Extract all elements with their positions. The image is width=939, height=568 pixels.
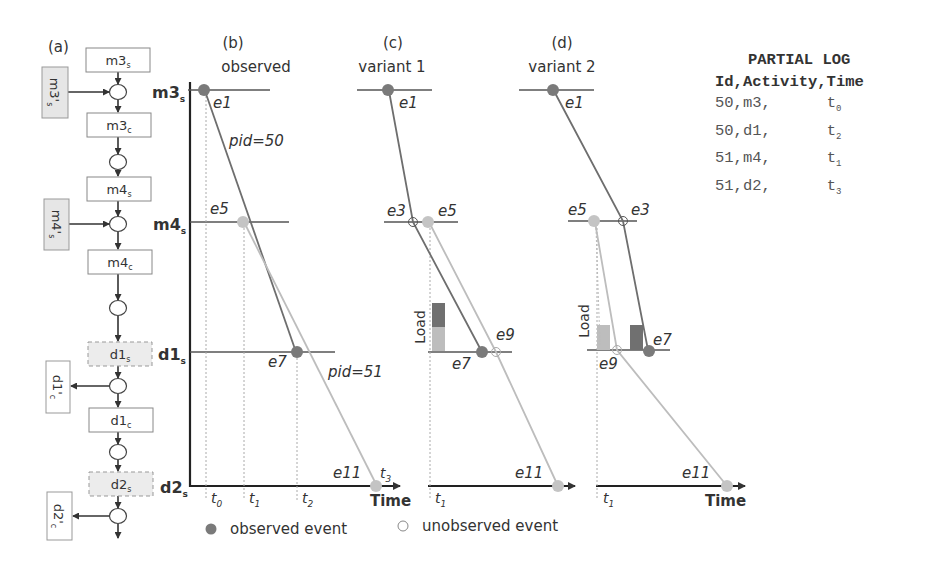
event-e7-observed — [291, 346, 303, 358]
level-d2s: d2s — [160, 478, 188, 499]
log-header: Id,Activity,Time — [715, 72, 864, 94]
legend-observed: observed event — [230, 520, 347, 538]
place-7 — [110, 509, 127, 524]
level-m3s: m3s — [152, 83, 185, 104]
place-1 — [110, 85, 127, 100]
svg-text:e7: e7 — [268, 353, 287, 371]
log-row: 50,d1, t2 — [715, 121, 864, 149]
flow-box-m3s: m3s — [86, 48, 150, 72]
svg-text:e11: e11 — [515, 464, 543, 482]
unobserved-event-legend-icon — [398, 521, 408, 531]
place-4 — [110, 301, 127, 316]
level-d1s: d1s — [158, 345, 186, 366]
observed-event-legend-icon — [206, 524, 217, 535]
place-5 — [110, 379, 127, 394]
event-e11-observed — [370, 480, 382, 492]
svg-text:m3's: m3's — [45, 78, 62, 107]
flow-box-m4s: m4s — [87, 177, 151, 201]
panel-d: (d) variant 2 Load e1 e5 e3 e9 e7 e11 t1… — [519, 34, 746, 510]
svg-text:t1: t1 — [603, 490, 614, 509]
svg-text:e5: e5 — [568, 201, 587, 219]
svg-text:e5: e5 — [210, 200, 229, 218]
place-2 — [110, 155, 127, 170]
panel-c-title: variant 1 — [358, 58, 425, 76]
load-label-d: Load — [576, 304, 592, 338]
svg-text:e7: e7 — [452, 355, 471, 373]
side-box-m4prime-s: m4's — [44, 199, 69, 250]
panel-a: (a) — [42, 38, 153, 540]
svg-text:e1: e1 — [213, 94, 232, 112]
side-box-m3prime-s: m3's — [42, 67, 68, 118]
svg-text:e3: e3 — [631, 201, 650, 219]
svg-text:e9: e9 — [599, 355, 618, 373]
legend-unobserved: unobserved event — [422, 517, 558, 535]
flow-box-m4c: m4c — [88, 250, 152, 274]
svg-text:t2: t2 — [302, 490, 314, 509]
side-box-d1prime-c: d1'c — [46, 361, 70, 413]
flow-box-d2s: d2s — [89, 472, 153, 496]
level-labels: m3s m4s d1s d2s — [152, 83, 188, 499]
log-row: 50,m3, t0 — [715, 93, 864, 121]
panel-b: (b) observed e1 e5 e7 e11 pid=50 — [188, 34, 411, 510]
flow-box-m3c: m3c — [87, 113, 151, 137]
time-axis-label-b: Time — [370, 492, 411, 510]
load-label-c: Load — [412, 310, 428, 344]
load-bar-light-c — [432, 327, 445, 351]
log-row: 51,m4, t1 — [715, 148, 864, 176]
svg-text:e7: e7 — [653, 331, 672, 349]
flow-box-d1s: d1s — [88, 342, 152, 366]
svg-text:t3: t3 — [380, 465, 392, 484]
svg-text:m4's: m4's — [47, 210, 64, 239]
svg-text:t1: t1 — [249, 490, 260, 509]
place-6 — [110, 445, 127, 460]
svg-text:e3: e3 — [387, 202, 406, 220]
svg-text:e9: e9 — [496, 326, 515, 344]
flow-box-d1c: d1c — [89, 408, 153, 432]
pid-50-label: pid=50 — [228, 132, 284, 150]
time-axis-label-d: Time — [705, 492, 746, 510]
load-bar-dark-d — [630, 325, 643, 350]
panel-b-title: observed — [221, 58, 291, 76]
log-row: 51,d2, t3 — [715, 176, 864, 204]
svg-text:e1: e1 — [399, 94, 418, 112]
panel-c-label: (c) — [383, 34, 403, 52]
load-bar-dark-c — [432, 303, 445, 327]
legend: observed event unobserved event — [206, 517, 559, 538]
side-box-d2prime-c: d2'c — [47, 492, 72, 540]
svg-text:e11: e11 — [333, 464, 361, 482]
panel-b-label: (b) — [222, 34, 243, 52]
svg-text:e1: e1 — [565, 94, 584, 112]
svg-text:t0: t0 — [211, 490, 223, 509]
pid-51-label: pid=51 — [327, 363, 383, 381]
partial-log: PARTIAL LOG Id,Activity,Time 50,m3, t0 5… — [715, 50, 864, 203]
panel-d-label: (d) — [551, 34, 572, 52]
panel-d-title: variant 2 — [528, 58, 595, 76]
svg-text:e11: e11 — [682, 464, 710, 482]
panel-c: (c) variant 1 Load e1 e3 e5 e7 e9 e11 t1 — [357, 34, 575, 509]
log-title: PARTIAL LOG — [715, 50, 864, 72]
svg-text:e5: e5 — [438, 202, 457, 220]
event-e5-observed — [237, 216, 249, 228]
svg-text:t1: t1 — [435, 490, 446, 509]
place-3 — [110, 217, 127, 232]
event-e1-observed — [198, 84, 210, 96]
panel-a-label: (a) — [48, 38, 69, 56]
level-m4s: m4s — [153, 215, 186, 236]
